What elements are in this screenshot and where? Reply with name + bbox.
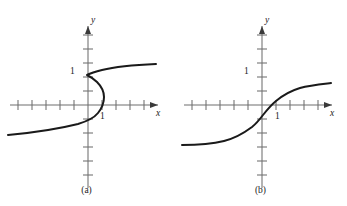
y-axis-label-a: y [91, 16, 95, 26]
y-unit-label-b: 1 [244, 67, 249, 77]
curve-a [8, 64, 156, 135]
panel-caption-b: (b) [174, 186, 347, 196]
panel-a-plot [0, 0, 173, 206]
panel-b: x y 1 1 (b) [174, 0, 347, 206]
curve-b [182, 83, 331, 145]
panel-caption-a: (a) [0, 186, 173, 196]
y-axis-arrow-b [259, 26, 265, 34]
x-axis-label-b: x [330, 109, 334, 119]
figure-root: x y 1 1 (a) [0, 0, 347, 206]
y-axis-arrow-a [85, 26, 91, 34]
panel-b-plot [174, 0, 347, 206]
y-axis-label-b: y [265, 16, 269, 26]
x-unit-label-b: 1 [275, 112, 280, 122]
panel-a: x y 1 1 (a) [0, 0, 173, 206]
y-unit-label-a: 1 [70, 67, 75, 77]
x-axis-label-a: x [156, 109, 160, 119]
x-unit-label-a: 1 [100, 112, 105, 122]
